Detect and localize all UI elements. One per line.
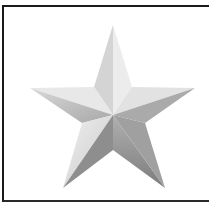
star-icon	[0, 0, 209, 203]
